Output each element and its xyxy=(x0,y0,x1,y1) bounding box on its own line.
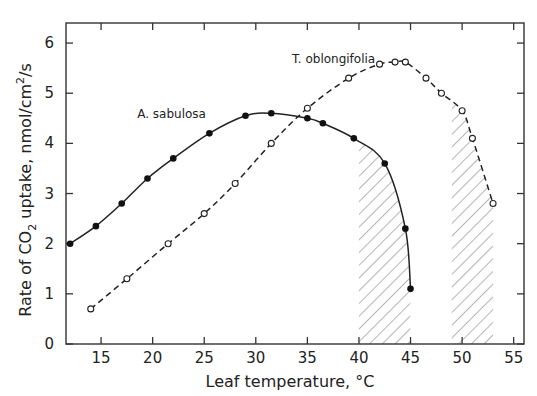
series-labels: A. sabulosaT. oblongifolia xyxy=(137,52,375,121)
co2-uptake-chart: 152025303540455055 0123456 A. sabulosaT.… xyxy=(0,0,537,396)
data-point xyxy=(170,155,177,162)
data-point xyxy=(242,112,249,119)
x-tick-label: 35 xyxy=(298,349,317,367)
data-point xyxy=(402,225,409,232)
data-point xyxy=(469,135,475,141)
series-layer xyxy=(67,59,496,312)
series-t-oblongifolia xyxy=(88,59,496,312)
hatched-region xyxy=(359,23,411,344)
data-point xyxy=(67,240,74,247)
y-tick-label: 4 xyxy=(44,134,54,152)
series-label: T. oblongifolia xyxy=(291,52,375,66)
data-point xyxy=(423,75,429,81)
data-point xyxy=(392,59,398,65)
data-point xyxy=(320,120,327,127)
x-tick-label: 15 xyxy=(92,349,111,367)
data-point xyxy=(381,160,388,167)
data-point xyxy=(201,211,207,217)
data-point xyxy=(144,175,151,182)
data-point xyxy=(118,200,125,207)
data-point xyxy=(304,115,311,122)
y-tick-label: 3 xyxy=(44,185,54,203)
y-axis-title: Rate of CO2 uptake, nmol/cm2/s xyxy=(14,63,39,317)
data-point xyxy=(88,306,94,312)
data-point xyxy=(165,241,171,247)
data-point xyxy=(407,286,414,293)
data-point xyxy=(438,90,444,96)
y-tick-label: 1 xyxy=(44,285,54,303)
y-tick-label: 6 xyxy=(44,34,54,52)
y-tick-label: 5 xyxy=(44,84,54,102)
data-point xyxy=(350,135,357,142)
data-point xyxy=(490,201,496,207)
data-point xyxy=(346,75,352,81)
y-tick-label: 2 xyxy=(44,235,54,253)
x-tick-label: 40 xyxy=(349,349,368,367)
data-point xyxy=(459,108,465,114)
series-label: A. sabulosa xyxy=(137,107,206,121)
x-axis-title: Leaf temperature, °C xyxy=(206,372,375,391)
x-tick-label: 45 xyxy=(401,349,420,367)
data-point xyxy=(93,223,100,230)
data-point xyxy=(232,181,238,187)
data-point xyxy=(402,59,408,65)
data-point xyxy=(268,140,274,146)
data-point xyxy=(377,61,383,67)
shaded-regions xyxy=(359,23,493,344)
data-point xyxy=(124,276,130,282)
data-point xyxy=(268,110,275,117)
data-point xyxy=(304,105,310,111)
x-tick-label: 20 xyxy=(143,349,162,367)
data-point xyxy=(206,130,213,137)
hatched-region xyxy=(452,23,493,344)
y-tick-label: 0 xyxy=(44,335,54,353)
x-tick-label: 30 xyxy=(246,349,265,367)
x-tick-label: 50 xyxy=(453,349,472,367)
x-tick-label: 55 xyxy=(504,349,523,367)
x-tick-label: 25 xyxy=(195,349,214,367)
